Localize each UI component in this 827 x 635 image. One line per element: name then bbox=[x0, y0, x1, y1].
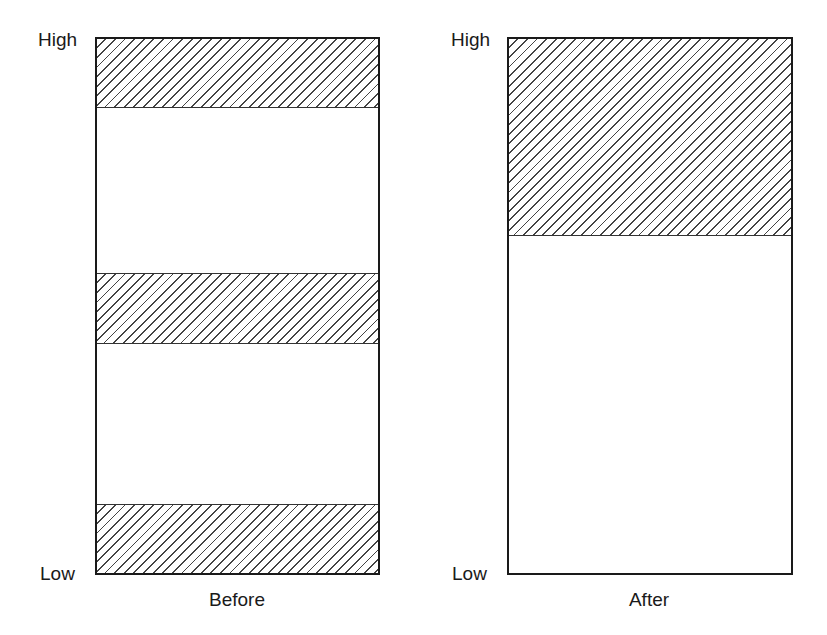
after-hatched-band-top bbox=[509, 39, 791, 236]
before-caption: Before bbox=[209, 590, 265, 609]
after-caption: After bbox=[629, 590, 669, 609]
after-low-label: Low bbox=[452, 564, 487, 583]
before-low-label: Low bbox=[40, 564, 75, 583]
before-hatched-band-top bbox=[97, 39, 378, 108]
before-high-label: High bbox=[38, 30, 77, 49]
before-column bbox=[95, 37, 380, 575]
before-hatched-band-bottom bbox=[97, 504, 378, 573]
after-column bbox=[507, 37, 793, 575]
after-high-label: High bbox=[451, 30, 490, 49]
before-hatched-band-middle bbox=[97, 273, 378, 344]
